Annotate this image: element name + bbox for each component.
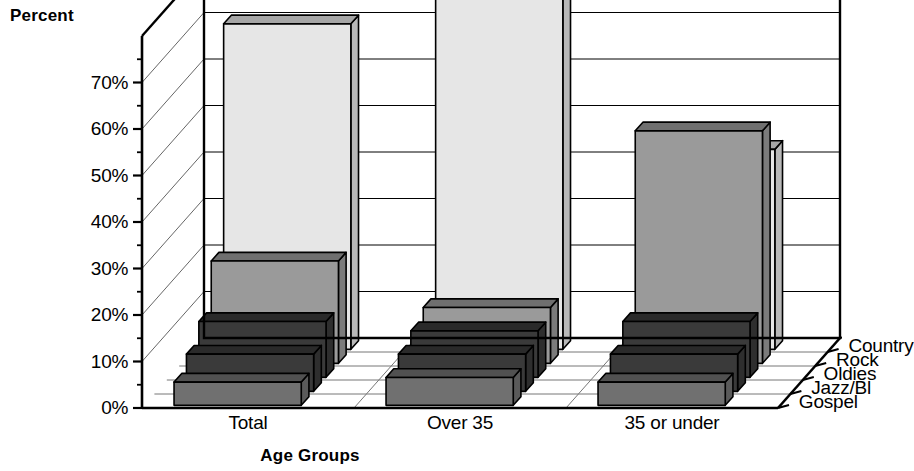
legend-item-gospel: Gospel [799, 391, 858, 413]
bar-country-over-35 [436, 0, 571, 349]
bar-gospel-over-35 [386, 369, 521, 406]
y-tick-label-10: 10% [50, 351, 128, 373]
y-tick-label-60: 60% [50, 118, 128, 140]
y-tick-label-20: 20% [50, 304, 128, 326]
y-tick-label-30: 30% [50, 258, 128, 280]
bar-gospel-35-or-under [598, 373, 733, 405]
y-tick-label-50: 50% [50, 165, 128, 187]
y-tick-label-70: 70% [50, 72, 128, 94]
y-tick-label-40: 40% [50, 211, 128, 233]
y-tick-label-0: 0% [50, 397, 128, 419]
x-category-label-over-35: Over 35 [427, 412, 493, 434]
x-category-label-total: Total [228, 412, 267, 434]
bar-gospel-total [174, 373, 309, 405]
x-axis-title: Age Groups [0, 446, 620, 466]
x-category-label-35-or-under: 35 or under [625, 412, 720, 434]
y-axis-tick-marks [133, 59, 142, 408]
